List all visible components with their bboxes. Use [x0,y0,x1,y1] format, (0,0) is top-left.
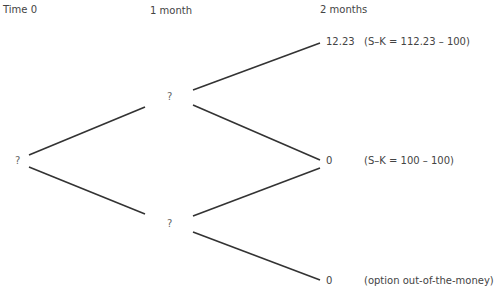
edge-down-dd [193,232,320,280]
edge-up-ud [193,105,320,160]
node-uu-note: (S–K = 112.23 – 100) [364,36,470,47]
node-down: ? [167,218,172,229]
edge-root-down [29,167,145,214]
node-ud-value: 0 [326,155,332,166]
edge-up-uu [193,43,320,90]
node-dd-note: (option out-of-the-money) [364,275,494,286]
node-up: ? [167,91,172,102]
node-uu-value: 12.23 [326,36,355,47]
node-ud-note: (S–K = 100 – 100) [364,155,454,166]
edge-down-ud [193,168,320,216]
node-root: ? [15,155,20,166]
node-dd-value: 0 [326,275,332,286]
edge-root-up [29,107,145,155]
